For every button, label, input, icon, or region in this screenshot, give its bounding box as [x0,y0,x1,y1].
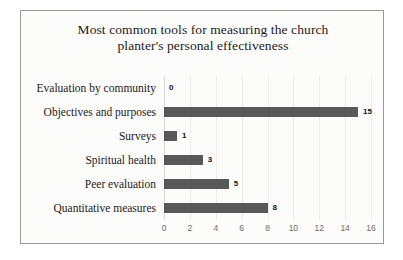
x-tick-label: 8 [265,223,270,233]
bar[interactable] [164,179,229,189]
bar-value-label: 3 [208,148,212,172]
bar[interactable] [164,131,177,141]
bars-layer: Evaluation by community0Objectives and p… [164,76,371,220]
bar-row[interactable]: Spiritual health3 [164,148,371,172]
bar[interactable] [164,203,268,213]
bar-row[interactable]: Surveys1 [164,124,371,148]
bar-row[interactable]: Objectives and purposes15 [164,100,371,124]
chart-title-line-1: Most common tools for measuring the chur… [31,22,375,38]
category-label: Quantitative measures [53,196,156,220]
bar-row[interactable]: Evaluation by community0 [164,76,371,100]
category-label: Peer evaluation [85,172,156,196]
x-tick-label: 4 [213,223,218,233]
bar-value-label: 5 [234,172,238,196]
x-tick-label: 10 [289,223,298,233]
x-axis: 0246810121416 [164,220,371,238]
bar[interactable] [164,107,358,117]
bar-row[interactable]: Quantitative measures8 [164,196,371,220]
bar-value-label: 0 [169,76,173,100]
chart-frame: Most common tools for measuring the chur… [20,10,384,244]
chart-title-line-2: planter's personal effectiveness [31,38,375,54]
bar-value-label: 8 [273,196,277,220]
x-tick-label: 2 [188,223,193,233]
category-label: Objectives and purposes [44,100,156,124]
category-label: Surveys [119,124,156,148]
gridline-16 [371,76,372,220]
bar-value-label: 1 [182,124,186,148]
category-label: Evaluation by community [37,76,156,100]
plot-area: Evaluation by community0Objectives and p… [164,76,371,220]
x-tick-label: 0 [162,223,167,233]
x-tick-label: 12 [315,223,324,233]
bar-row[interactable]: Peer evaluation5 [164,172,371,196]
chart-title: Most common tools for measuring the chur… [31,22,375,54]
x-tick-label: 6 [239,223,244,233]
bar-value-label: 15 [363,100,372,124]
bar[interactable] [164,155,203,165]
x-tick-label: 16 [366,223,375,233]
x-tick-label: 14 [340,223,349,233]
category-label: Spiritual health [85,148,156,172]
